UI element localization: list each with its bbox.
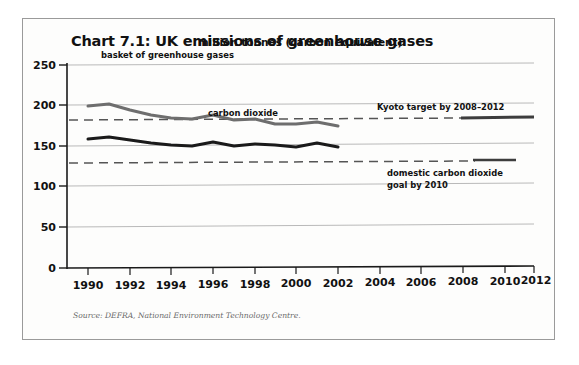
- annotation-carbon-dioxide-label: carbon dioxide: [208, 108, 278, 118]
- x-tick-1992: 1992: [115, 279, 146, 292]
- chart-figure-frame: Chart 7.1: UK emissions of greenhouse ga…: [22, 18, 555, 340]
- kyoto-target-line: [69, 117, 534, 120]
- y-tick-0: 0: [48, 262, 56, 275]
- annotation-basket-label: basket of greenhouse gases: [101, 50, 234, 60]
- x-tick-1998: 1998: [240, 278, 271, 291]
- x-tick-2008: 2008: [448, 275, 479, 288]
- y-tick-100: 100: [33, 180, 56, 193]
- x-tick-2006: 2006: [406, 276, 437, 289]
- annotation-domestic-goal-label-line1: domestic carbon dioxide: [387, 168, 503, 178]
- annotation-kyoto-target-label: Kyoto target by 2008–2012: [377, 102, 505, 112]
- x-tick-2010: 2010: [490, 275, 521, 288]
- chart-subtitle: million tonnes (carbon equivalent): [198, 36, 403, 48]
- x-tick-2000: 2000: [281, 277, 312, 290]
- y-tick-200: 200: [33, 99, 56, 112]
- x-tick-2004: 2004: [365, 276, 396, 289]
- x-tick-2012: 2012: [521, 274, 552, 287]
- x-tick-1996: 1996: [198, 278, 229, 291]
- chart-plot-area: 250 200 150 100 50 0 1990 1992: [23, 19, 556, 341]
- x-tick-1994: 1994: [156, 279, 187, 292]
- source-note: Source: DEFRA, National Environment Tech…: [73, 311, 301, 320]
- y-tick-50: 50: [41, 221, 57, 234]
- y-tick-labels: 250 200 150 100 50 0: [33, 59, 56, 275]
- x-axis: [67, 266, 534, 275]
- y-tick-150: 150: [33, 140, 56, 153]
- x-tick-1990: 1990: [73, 279, 104, 292]
- x-tick-2002: 2002: [323, 277, 354, 290]
- x-tick-labels: 1990 1992 1994 1996 1998 2000 2002 2004 …: [73, 274, 552, 292]
- annotation-domestic-goal-label-line2: goal by 2010: [387, 180, 448, 190]
- domestic-goal-line: [69, 160, 516, 163]
- y-tick-250: 250: [33, 59, 56, 72]
- y-axis: [59, 63, 67, 269]
